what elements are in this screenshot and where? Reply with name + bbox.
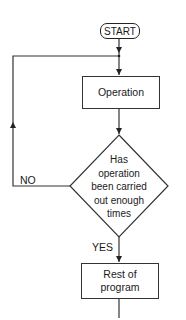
arrowhead-down-icon	[116, 256, 122, 262]
arrowhead-down-icon	[116, 128, 122, 134]
rest-line: program	[100, 281, 139, 294]
decision-line: times	[80, 207, 158, 221]
start-label: START	[104, 26, 136, 37]
decision-line: been carried	[80, 180, 158, 194]
decision-line: Has	[80, 153, 158, 167]
yes-label: YES	[92, 241, 113, 253]
operation-box: Operation	[82, 76, 160, 109]
rest-of-program-box: Rest of program	[81, 263, 159, 299]
decision-text: Has operation been carried out enough ti…	[80, 153, 158, 221]
arrowhead-up-icon	[10, 122, 16, 128]
operation-label: Operation	[98, 86, 144, 99]
decision-line: operation	[80, 167, 158, 181]
arrowhead-down-icon	[116, 69, 122, 75]
no-label: NO	[20, 174, 36, 186]
decision-line: out enough	[80, 194, 158, 208]
start-terminator: START	[100, 23, 140, 39]
junction-dot	[118, 55, 121, 58]
arrowhead-down-icon	[116, 47, 122, 53]
rest-line: Rest of	[103, 268, 136, 281]
